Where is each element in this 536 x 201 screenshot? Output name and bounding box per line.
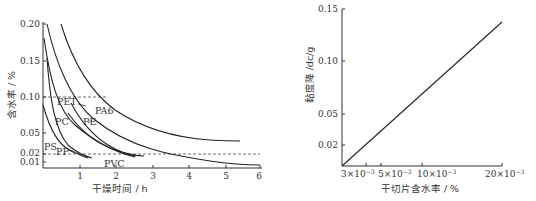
left-y-axis-title: 含水率 / % — [6, 71, 17, 119]
left-x-axis-title: 干燥时间 / h — [92, 183, 147, 194]
right-y-axis-title: 黏度降 /dc/g — [304, 47, 315, 104]
curve-pe — [68, 113, 144, 156]
left-y-tick-label: 0.15 — [20, 56, 40, 66]
left-y-tick-label: 0.10 — [20, 92, 40, 102]
left-x-tick-label: 4 — [186, 171, 192, 181]
curve-label-ps: PS — [44, 141, 57, 152]
right-chart: 0.15 0.10 0.05 0.02 3×10−3 5×10−3 10×10−… — [304, 4, 524, 194]
right-x-tick-label: 5×10−3 — [378, 168, 412, 179]
left-chart: 0.20 0.15 0.10 0.05 0.02 0.01 1 2 3 4 5 … — [6, 19, 262, 194]
left-x-tick-label: 3 — [150, 171, 156, 181]
left-y-tick-label: 0.20 — [20, 19, 40, 29]
right-y-tick-label: 0.05 — [318, 109, 338, 119]
curve-label-pp: PP — [56, 146, 69, 157]
left-x-tick-label: 5 — [223, 171, 229, 181]
left-x-tick-label: 2 — [113, 171, 119, 181]
left-y-tick-label: 0.05 — [20, 128, 40, 138]
right-y-tick-label: 0.15 — [318, 4, 338, 14]
curve-label-pa6: PA6 — [95, 105, 113, 116]
right-x-tick-label: 3×10−3 — [341, 168, 375, 179]
right-x-tick-label: 20×10−3 — [485, 168, 524, 179]
left-x-tick-label: 6 — [256, 171, 262, 181]
left-y-tick-label: 0.01 — [20, 157, 40, 167]
curve-label-pe: PE — [83, 116, 96, 127]
figure-canvas: 0.20 0.15 0.10 0.05 0.02 0.01 1 2 3 4 5 … — [0, 0, 536, 201]
left-x-tick-label: 1 — [77, 171, 83, 181]
curve-label-pet: PET — [57, 96, 77, 107]
viscosity-drop-line — [342, 22, 502, 166]
curve-label-pvc: PVC — [104, 158, 125, 169]
right-x-axis-title: 干切片含水率 / % — [381, 183, 459, 194]
right-y-tick-label: 0.02 — [318, 140, 338, 150]
right-y-tick-label: 0.10 — [318, 56, 338, 66]
left-curves — [43, 24, 260, 165]
right-x-tick-label: 10×10−3 — [417, 168, 456, 179]
curve-pet — [47, 24, 260, 165]
curve-label-pc: PC — [55, 116, 69, 127]
